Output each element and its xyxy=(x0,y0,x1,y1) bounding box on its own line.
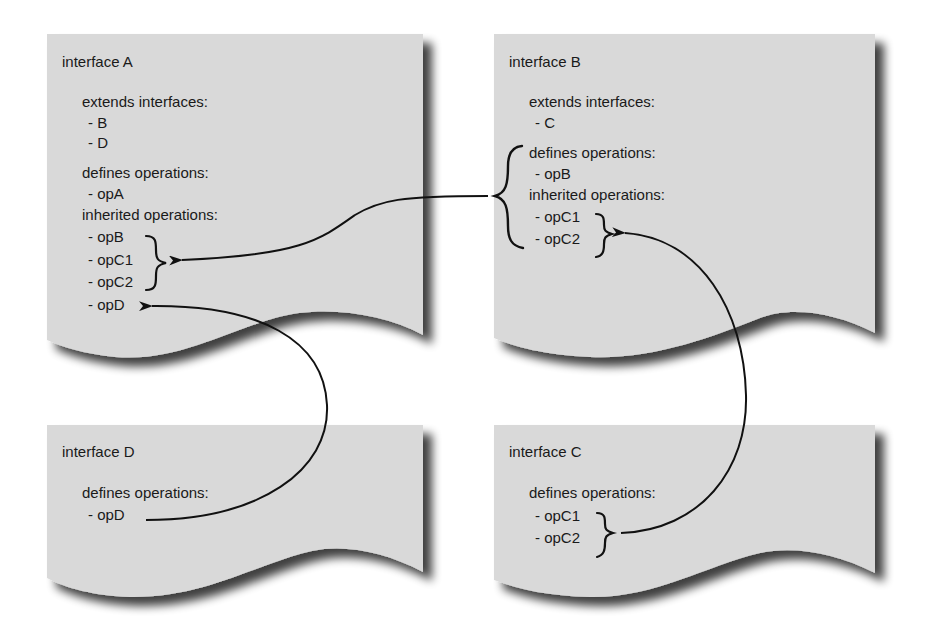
interface-d-defines-item: - opD xyxy=(88,506,125,523)
interface-d-page: interface D defines operations: - opD xyxy=(47,425,423,597)
interface-a-extends-heading: extends interfaces: xyxy=(82,93,208,110)
interface-b-extends-heading: extends interfaces: xyxy=(529,93,655,110)
interface-a-page: interface A extends interfaces: - B - D … xyxy=(47,34,423,358)
interface-inheritance-diagram: interface A extends interfaces: - B - D … xyxy=(0,0,931,631)
interface-a-defines-heading: defines operations: xyxy=(82,164,209,181)
interface-c-title: interface C xyxy=(509,443,582,460)
interface-b-inherited-item: - opC1 xyxy=(535,208,580,225)
interface-a-title: interface A xyxy=(62,53,133,70)
interface-b-inherited-heading: inherited operations: xyxy=(529,186,665,203)
interface-c-page: interface C defines operations: - opC1 -… xyxy=(494,425,875,597)
interface-a-extends-item: - D xyxy=(88,134,108,151)
interface-a-inherited-item: - opC2 xyxy=(88,273,133,290)
interface-c-defines-item: - opC2 xyxy=(535,529,580,546)
interface-d-title: interface D xyxy=(62,443,135,460)
interface-a-defines-item: - opA xyxy=(88,185,124,202)
interface-c-defines-item: - opC1 xyxy=(535,507,580,524)
interface-a-inherited-item: - opB xyxy=(88,228,124,245)
interface-c-defines-heading: defines operations: xyxy=(529,484,656,501)
interface-a-inherited-heading: inherited operations: xyxy=(82,206,218,223)
interface-a-inherited-item: - opC1 xyxy=(88,251,133,268)
interface-d-defines-heading: defines operations: xyxy=(82,484,209,501)
interface-b-defines-heading: defines operations: xyxy=(529,144,656,161)
interface-a-inherited-item: - opD xyxy=(88,296,125,313)
interface-a-extends-item: - B xyxy=(88,114,107,131)
interface-b-extends-item: - C xyxy=(535,114,555,131)
interface-b-page: interface B extends interfaces: - C defi… xyxy=(494,34,875,357)
interface-b-title: interface B xyxy=(509,53,581,70)
interface-b-inherited-item: - opC2 xyxy=(535,230,580,247)
interface-b-defines-item: - opB xyxy=(535,165,571,182)
